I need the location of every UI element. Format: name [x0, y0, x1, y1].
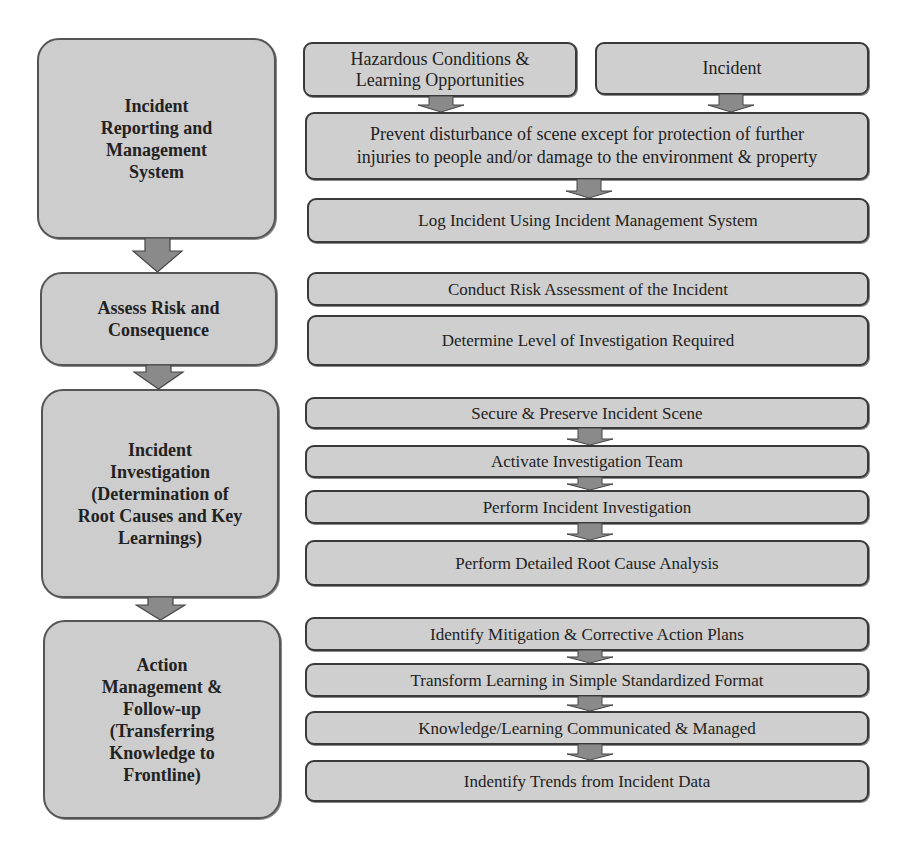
phase-line: Assess Risk and: [97, 297, 219, 319]
phase-label: Assess Risk and Consequence: [97, 297, 219, 341]
step-line: Secure & Preserve Incident Scene: [471, 403, 702, 424]
phase-line: Frontline): [102, 764, 222, 786]
down-arrow-icon: [707, 94, 755, 113]
step-perform-investigation: Perform Incident Investigation: [305, 490, 869, 524]
phase-label: Incident Investigation (Determination of…: [78, 439, 243, 549]
step-line: Hazardous Conditions &: [351, 49, 530, 70]
down-arrow-icon: [566, 477, 614, 491]
step-identify-mitigation: Identify Mitigation & Corrective Action …: [305, 617, 869, 651]
phase-line: System: [101, 161, 213, 183]
step-identify-trends: Indentify Trends from Incident Data: [305, 760, 869, 802]
step-line: Knowledge/Learning Communicated & Manage…: [418, 718, 756, 739]
step-root-cause-analysis: Perform Detailed Root Cause Analysis: [305, 540, 869, 586]
phase-line: Management &: [102, 676, 222, 698]
phase-action-management: Action Management & Follow-up (Transferr…: [43, 620, 281, 819]
step-conduct-risk-assessment: Conduct Risk Assessment of the Incident: [307, 272, 869, 306]
phase-assess-risk: Assess Risk and Consequence: [40, 272, 277, 366]
down-arrow-icon: [135, 597, 187, 621]
phase-incident-investigation: Incident Investigation (Determination of…: [41, 389, 279, 598]
down-arrow-icon: [566, 650, 614, 664]
step-log-incident: Log Incident Using Incident Management S…: [307, 198, 869, 243]
phase-line: (Determination of: [78, 483, 243, 505]
step-prevent-disturbance: Prevent disturbance of scene except for …: [305, 112, 869, 180]
phase-label: Incident Reporting and Management System: [101, 95, 213, 183]
step-line: Transform Learning in Simple Standardize…: [410, 670, 763, 691]
step-line: injuries to people and/or damage to the …: [357, 146, 817, 169]
phase-line: Root Causes and Key: [78, 505, 243, 527]
step-line: Log Incident Using Incident Management S…: [418, 210, 757, 231]
phase-line: Consequence: [97, 319, 219, 341]
trigger-incident: Incident: [595, 42, 869, 95]
phase-line: Management: [101, 139, 213, 161]
down-arrow-icon: [417, 96, 465, 113]
step-line: Identify Mitigation & Corrective Action …: [430, 624, 744, 645]
phase-label: Action Management & Follow-up (Transferr…: [102, 654, 222, 786]
step-line: Learning Opportunities: [351, 70, 530, 91]
step-line: Perform Incident Investigation: [483, 497, 692, 518]
phase-line: Knowledge to: [102, 742, 222, 764]
phase-incident-reporting: Incident Reporting and Management System: [37, 38, 276, 239]
step-line: Activate Investigation Team: [491, 451, 683, 472]
phase-line: (Transferring: [102, 720, 222, 742]
down-arrow-icon: [132, 238, 184, 273]
down-arrow-icon: [566, 523, 614, 541]
down-arrow-icon: [565, 179, 613, 199]
step-line: Prevent disturbance of scene except for …: [357, 123, 817, 146]
phase-line: Action: [102, 654, 222, 676]
phase-line: Incident: [101, 95, 213, 117]
phase-line: Reporting and: [101, 117, 213, 139]
step-transform-learning: Transform Learning in Simple Standardize…: [305, 663, 869, 697]
down-arrow-icon: [133, 365, 185, 390]
step-knowledge-communicated: Knowledge/Learning Communicated & Manage…: [305, 711, 869, 745]
step-line: Determine Level of Investigation Require…: [442, 330, 735, 351]
down-arrow-icon: [566, 428, 614, 446]
step-activate-team: Activate Investigation Team: [305, 445, 869, 478]
phase-line: Follow-up: [102, 698, 222, 720]
trigger-hazardous-conditions: Hazardous Conditions & Learning Opportun…: [303, 42, 577, 97]
down-arrow-icon: [566, 696, 614, 712]
step-determine-level: Determine Level of Investigation Require…: [307, 315, 869, 366]
step-line: Incident: [703, 58, 762, 79]
step-secure-scene: Secure & Preserve Incident Scene: [305, 397, 869, 429]
step-line: Perform Detailed Root Cause Analysis: [455, 553, 718, 574]
phase-line: Learnings): [78, 527, 243, 549]
phase-line: Investigation: [78, 461, 243, 483]
step-line: Conduct Risk Assessment of the Incident: [448, 279, 728, 300]
down-arrow-icon: [566, 744, 614, 761]
step-line: Indentify Trends from Incident Data: [464, 771, 710, 792]
phase-line: Incident: [78, 439, 243, 461]
